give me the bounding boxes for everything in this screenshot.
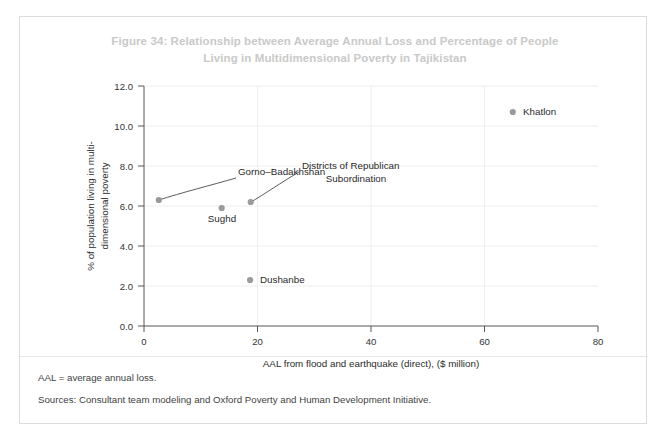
y-tick-label-2: 2.0 [120, 281, 133, 292]
data-point-districts-republican-subordination[interactable] [248, 199, 254, 205]
data-label-districts-republican-subordination-line-2: Subordination [326, 173, 386, 184]
y-tick-label-10: 10.0 [114, 121, 133, 132]
data-label-dushanbe: Dushanbe [260, 274, 305, 285]
y-tick-label-6: 6.0 [120, 201, 133, 212]
figure-container: Figure 34: Relationship between Average … [19, 16, 647, 424]
data-point-sughd[interactable] [219, 205, 225, 211]
y-tick-label-0: 0.0 [120, 321, 133, 332]
figure-footnotes: AAL = average annual loss. Sources: Cons… [20, 356, 648, 415]
data-label-khatlon: Khatlon [523, 106, 556, 117]
data-point-gorno-badakhshan[interactable] [156, 197, 162, 203]
data-label-districts-republican-subordination-line-1: Districts of Republican [302, 160, 399, 171]
y-tick-label-12: 12.0 [114, 81, 133, 92]
footnote-abbreviation: AAL = average annual loss. [38, 371, 630, 384]
x-tick-label-40: 40 [366, 336, 377, 347]
y-tick-label-4: 4.0 [120, 241, 133, 252]
x-tick-label-0: 0 [141, 336, 146, 347]
data-point-dushanbe[interactable] [247, 277, 253, 283]
leader-line-gorno-badakhshan [159, 178, 236, 200]
data-label-sughd: Sughd [208, 213, 236, 224]
x-tick-label-60: 60 [479, 336, 490, 347]
data-point-khatlon[interactable] [510, 109, 516, 115]
y-axis-ticks [138, 86, 144, 326]
y-axis-title-line-2: dimensional poverty [99, 162, 110, 249]
x-tick-label-80: 80 [593, 336, 604, 347]
x-tick-label-20: 20 [252, 336, 263, 347]
y-tick-label-8: 8.0 [120, 161, 133, 172]
footnote-sources: Sources: Consultant team modeling and Ox… [38, 393, 630, 406]
x-axis-ticks [144, 326, 598, 332]
y-axis-title-line-1: % of population living in multi- [85, 141, 96, 271]
